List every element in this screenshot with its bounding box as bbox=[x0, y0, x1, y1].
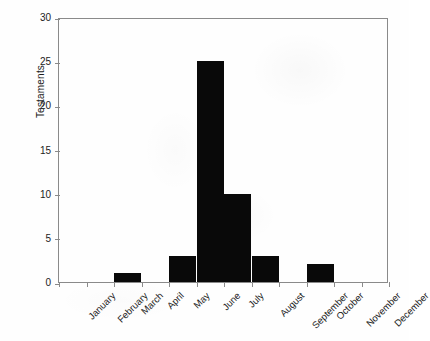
x-tick-mark bbox=[307, 282, 308, 287]
bar-july bbox=[224, 194, 251, 282]
plot-area: 051015202530 JanuaryFebruaryMarchAprilMa… bbox=[58, 18, 388, 283]
x-tick-label-june: June bbox=[220, 290, 242, 312]
x-tick-mark bbox=[252, 282, 253, 287]
y-tick-mark bbox=[55, 195, 60, 196]
y-tick-mark bbox=[55, 63, 60, 64]
x-tick-mark bbox=[142, 282, 143, 287]
x-tick-label-may: May bbox=[191, 290, 211, 310]
x-tick-mark bbox=[362, 282, 363, 287]
y-tick-mark bbox=[55, 239, 60, 240]
x-tick-mark bbox=[224, 282, 225, 287]
x-tick-label-january: January bbox=[86, 290, 118, 322]
x-tick-mark bbox=[279, 282, 280, 287]
x-tick-label-july: July bbox=[246, 290, 266, 310]
y-tick-label: 15 bbox=[29, 145, 51, 156]
y-tick-label: 20 bbox=[29, 100, 51, 111]
x-tick-label-august: August bbox=[277, 290, 306, 319]
y-tick-label: 25 bbox=[29, 56, 51, 67]
y-tick-label: 5 bbox=[29, 233, 51, 244]
x-tick-mark bbox=[197, 282, 198, 287]
x-tick-mark bbox=[169, 282, 170, 287]
bar-may bbox=[169, 256, 196, 283]
x-tick-mark bbox=[59, 282, 60, 287]
x-tick-mark bbox=[389, 282, 390, 287]
y-tick-label: 10 bbox=[29, 189, 51, 200]
x-tick-mark bbox=[114, 282, 115, 287]
x-tick-mark bbox=[87, 282, 88, 287]
y-tick-label: 0 bbox=[29, 277, 51, 288]
y-tick-label: 30 bbox=[29, 12, 51, 23]
bar-march bbox=[114, 273, 141, 282]
x-tick-label-april: April bbox=[164, 290, 185, 311]
x-tick-mark bbox=[334, 282, 335, 287]
bar-june bbox=[197, 61, 224, 282]
y-tick-mark bbox=[55, 151, 60, 152]
y-tick-mark bbox=[55, 107, 60, 108]
y-tick-mark bbox=[55, 19, 60, 20]
bar-august bbox=[252, 256, 279, 283]
y-axis-label: Testaments bbox=[35, 22, 46, 162]
bar-october bbox=[307, 264, 334, 282]
